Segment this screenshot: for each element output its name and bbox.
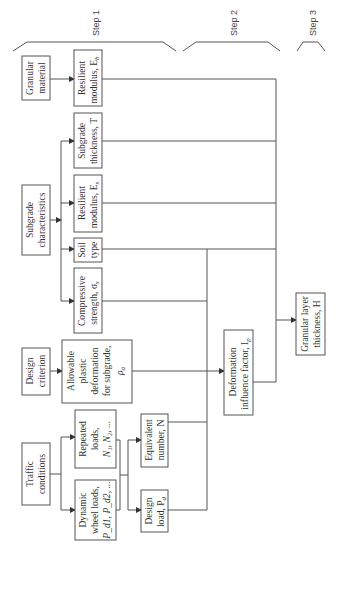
box-label: N₁, N₂, ... (101, 421, 112, 458)
box-traffic-conditions: Traffic conditions (22, 443, 50, 505)
box-label: type (88, 242, 99, 259)
box-compressive-strength: Compressive strength, σs (74, 268, 102, 333)
step-2-label: Step 2 (229, 10, 239, 36)
box-dynamic-wheel-loads: Dynamic wheel loads, P_d1, P_d2, ... (75, 480, 116, 540)
box-label: Compressive (76, 276, 87, 326)
box-granular-layer-thickness: Granular layer thickness, H (296, 293, 325, 355)
box-label: characteristics (36, 192, 47, 247)
box-label: Soil (76, 242, 87, 258)
step-1-bracket: Step 1 (13, 10, 176, 51)
box-label: loads, (89, 428, 100, 451)
box-label: P_d1, P_d2, ... (101, 481, 112, 539)
box-label: criterion (36, 355, 47, 388)
box-label: Allowable (65, 351, 76, 391)
box-soil-type: Soil type (74, 238, 102, 262)
box-repeated-loads: Repeated loads, N₁, N₂, ... (75, 410, 116, 468)
box-resilient-modulus-base: Resilient modulus, Eb (74, 50, 102, 106)
box-subgrade-thickness: Subgrade thickness, T (74, 113, 102, 168)
box-label: Granular layer (299, 295, 310, 351)
box-label: for subgrade, (101, 346, 112, 397)
box-label: Resilient (76, 61, 87, 95)
box-design-criterion: Design criterion (22, 348, 50, 395)
box-label: plastic (77, 358, 88, 383)
step-3-bracket: Step 3 (297, 10, 325, 51)
box-label: thickness, T (88, 118, 99, 164)
step-1-label: Step 1 (91, 10, 101, 36)
box-label: Subgrade (76, 123, 87, 159)
box-label: Design (143, 497, 154, 524)
box-resilient-modulus-subgrade: Resilient modulus, Es (74, 175, 102, 232)
box-label: thickness, H (311, 300, 322, 348)
box-label: Deformation (227, 347, 238, 396)
box-granular-material: Granular material (22, 56, 50, 100)
box-label: Resilient (76, 186, 87, 220)
box-allowable-plastic-deformation: Allowable plastic deformation for subgra… (62, 340, 132, 403)
design-flowchart: Step 1 Step 2 Step 3 (0, 0, 342, 606)
box-label: Dynamic (77, 492, 88, 527)
step-3-label: Step 3 (308, 10, 318, 36)
box-label: Equivalent (143, 419, 154, 461)
box-design-load: Design load, Pd (141, 490, 168, 532)
box-label: Granular (24, 60, 35, 95)
box-label: Subgrade (24, 202, 35, 238)
box-label: Traffic (24, 461, 35, 487)
box-deformation-influence-factor: Deformation influence factor, Ip (224, 330, 253, 415)
box-label: Design (24, 357, 35, 384)
box-label: Repeated (77, 421, 88, 457)
box-label: material (36, 62, 47, 94)
box-label: wheel loads, (89, 486, 100, 534)
box-label: number, N (155, 420, 166, 461)
box-equivalent-number: Equivalent number, N (141, 414, 168, 467)
box-subgrade-characteristics: Subgrade characteristics (22, 185, 50, 255)
box-label: deformation (89, 347, 100, 394)
box-label: conditions (36, 454, 47, 494)
step-2-bracket: Step 2 (183, 10, 280, 51)
